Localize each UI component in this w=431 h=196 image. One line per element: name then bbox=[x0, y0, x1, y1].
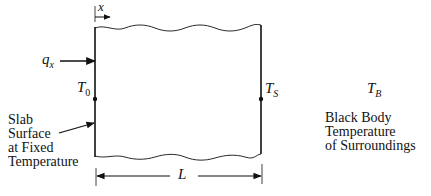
left-temp-sub: 0 bbox=[85, 87, 90, 98]
heat-flux-sub: x bbox=[50, 59, 54, 70]
surface-annotation-line: Slab bbox=[8, 113, 79, 127]
left-temp-point bbox=[93, 97, 97, 101]
surroundings-annotation-line: Temperature bbox=[325, 125, 416, 139]
surroundings-annotation: Black Body Temperature of Surroundings bbox=[325, 111, 416, 153]
slab-bottom-break bbox=[95, 154, 261, 160]
x-axis-label: x bbox=[98, 0, 104, 15]
surroundings-annotation-line: of Surroundings bbox=[325, 139, 416, 153]
slab-top-break bbox=[95, 24, 261, 31]
right-temp-point bbox=[259, 97, 263, 101]
heat-flux-label: qx bbox=[42, 51, 54, 68]
surface-annotation-line: Surface bbox=[8, 127, 79, 141]
surface-annotation-line: at Fixed bbox=[8, 141, 79, 155]
surroundings-temp-label: TB bbox=[367, 80, 381, 97]
surface-annotation: Slab Surface at Fixed Temperature bbox=[8, 113, 79, 169]
surroundings-annotation-line: Black Body bbox=[325, 111, 416, 125]
right-temp-label: TS bbox=[265, 80, 278, 97]
right-temp-sub: S bbox=[273, 88, 278, 99]
heat-flux-base: q bbox=[42, 51, 50, 67]
surface-annotation-line: Temperature bbox=[8, 155, 79, 169]
length-label: L bbox=[178, 166, 186, 183]
surroundings-temp-sub: B bbox=[375, 88, 381, 99]
left-temp-label: T0 bbox=[77, 79, 90, 96]
